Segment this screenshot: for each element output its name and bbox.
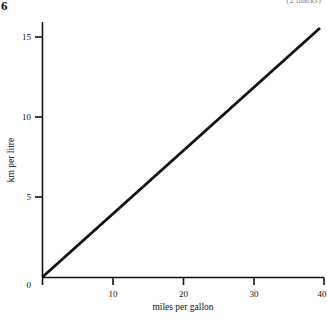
- y-axis-ticks: [35, 37, 43, 197]
- y-tick-label-15: 15: [10, 32, 31, 42]
- x-tick-label-30: 30: [250, 289, 259, 299]
- x-tick-label-40: 40: [318, 289, 327, 299]
- x-tick-label-10: 10: [109, 289, 118, 299]
- conversion-graph: 15 10 5 0 10 20 30 40 miles per gallon k…: [0, 0, 327, 320]
- conversion-line: [43, 28, 321, 277]
- x-axis-title: miles per gallon: [152, 302, 213, 313]
- y-tick-label-0: 0: [10, 280, 31, 290]
- y-tick-label-10: 10: [10, 112, 31, 122]
- y-tick-label-5: 5: [10, 192, 31, 202]
- plot-area: [0, 0, 327, 320]
- x-tick-label-20: 20: [179, 289, 188, 299]
- x-axis-ticks: [43, 278, 325, 286]
- y-axis-title: km per litre: [6, 138, 17, 182]
